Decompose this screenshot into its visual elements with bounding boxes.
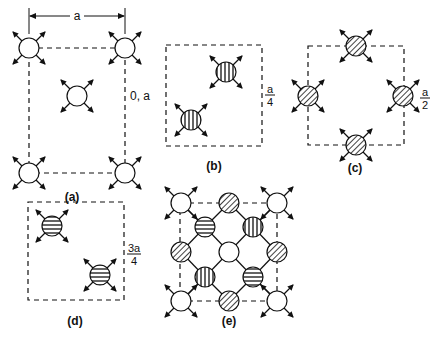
displacement-arrow [84, 259, 93, 268]
displacement-arrow [410, 103, 419, 112]
atom [216, 62, 236, 82]
displacement-arrow [165, 187, 174, 196]
atom [219, 291, 239, 311]
displacement-arrow [261, 210, 270, 219]
displacement-arrow [292, 80, 301, 89]
atom [67, 86, 87, 106]
displacement-arrow [387, 103, 396, 112]
displacement-arrow [188, 210, 197, 219]
displacement-arrow [165, 285, 174, 294]
displacement-arrow [13, 157, 22, 166]
atom [267, 242, 287, 262]
displacement-arrow [188, 285, 197, 294]
unit-cell-outline [308, 46, 404, 145]
layer-label-denominator: 4 [131, 255, 137, 267]
panel-label: (e) [222, 314, 237, 328]
atom [195, 217, 215, 237]
displacement-arrow [315, 103, 324, 112]
displacement-arrow [188, 187, 197, 196]
atom [195, 267, 215, 287]
panel-b: a 4 (b) [166, 45, 275, 173]
displacement-arrow [284, 308, 293, 317]
displacement-arrow [210, 56, 219, 65]
panel-a: a 0, a (a) [13, 8, 150, 204]
atom [171, 291, 191, 311]
displacement-arrow [36, 55, 45, 64]
atom [298, 86, 318, 106]
atom [90, 265, 110, 285]
displacement-arrow [410, 80, 419, 89]
displacement-arrow [36, 32, 45, 41]
atom [346, 36, 366, 56]
unit-cell-outline [29, 48, 125, 173]
displacement-arrow [165, 308, 174, 317]
layer-label-denominator: 4 [267, 96, 273, 108]
displacement-arrow [107, 259, 116, 268]
displacement-arrow [198, 127, 207, 136]
displacement-arrow [132, 32, 141, 41]
displacement-arrow [109, 157, 118, 166]
displacement-arrow [261, 285, 270, 294]
displacement-arrow [198, 104, 207, 113]
displacement-arrow [284, 187, 293, 196]
displacement-arrow [84, 103, 93, 112]
displacement-arrow [109, 180, 118, 189]
atom [171, 242, 191, 262]
layer-label-denominator: 2 [422, 99, 428, 111]
atom [346, 135, 366, 155]
displacement-arrow [13, 32, 22, 41]
displacement-arrow [284, 210, 293, 219]
atom [267, 193, 287, 213]
atom [19, 163, 39, 183]
displacement-arrow [36, 157, 45, 166]
atom [19, 38, 39, 58]
displacement-arrow [59, 210, 68, 219]
panel-e: (e) [165, 187, 293, 328]
displacement-arrow [13, 55, 22, 64]
atom [267, 291, 287, 311]
displacement-arrow [188, 308, 197, 317]
displacement-arrow [340, 129, 349, 138]
displacement-arrow [84, 282, 93, 291]
atom [171, 193, 191, 213]
displacement-arrow [315, 80, 324, 89]
atom [393, 86, 413, 106]
layer-label: 0, a [130, 89, 150, 103]
displacement-arrow [340, 152, 349, 161]
atom [219, 242, 239, 262]
layer-label-numerator: 3a [128, 242, 141, 254]
displacement-arrow [363, 129, 372, 138]
displacement-arrow [132, 180, 141, 189]
displacement-arrow [175, 104, 184, 113]
displacement-arrow [36, 180, 45, 189]
displacement-arrow [340, 30, 349, 39]
layer-label-numerator: a [267, 83, 274, 95]
dimension-label: a [74, 9, 81, 23]
displacement-arrow [165, 210, 174, 219]
displacement-arrow [284, 285, 293, 294]
displacement-arrow [132, 157, 141, 166]
displacement-arrow [261, 187, 270, 196]
displacement-arrow [363, 152, 372, 161]
displacement-arrow [175, 127, 184, 136]
atom [115, 38, 135, 58]
displacement-arrow [261, 308, 270, 317]
atom [219, 193, 239, 213]
crystal-structure-figure: a 0, a (a) a 4 (b) a 2 (c) 3a 4 (d) (e) [0, 0, 440, 341]
displacement-arrow [363, 30, 372, 39]
panel-d: 3a 4 (d) [28, 202, 141, 328]
displacement-arrow [340, 53, 349, 62]
layer-label-numerator: a [422, 86, 429, 98]
panel-label: (d) [67, 314, 82, 328]
displacement-arrow [210, 79, 219, 88]
panel-c: a 2 (c) [292, 30, 430, 175]
atom [115, 163, 135, 183]
atom [181, 110, 201, 130]
atom [243, 217, 263, 237]
displacement-arrow [36, 233, 45, 242]
displacement-arrow [61, 103, 70, 112]
displacement-arrow [233, 79, 242, 88]
displacement-arrow [109, 55, 118, 64]
panel-label: (c) [348, 161, 363, 175]
atom [42, 216, 62, 236]
